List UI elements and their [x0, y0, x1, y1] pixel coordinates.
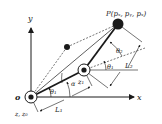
robot-arm-diagram: y x o z, z₀ z₁ P(pₓ, pᵧ, pₓ) θ₁ α θ₁ θ₂ …	[0, 0, 162, 124]
l1-label: L₁	[54, 106, 63, 114]
x-axis-label: x	[137, 93, 142, 102]
end-effector-label: P(pₓ, pᵧ, pₓ)	[105, 10, 146, 18]
base-joint	[25, 91, 37, 103]
base-joint-label: z, z₀	[14, 110, 28, 117]
link-1	[31, 70, 84, 97]
alpha-label: α	[71, 80, 76, 88]
alternate-elbow-dot	[64, 44, 70, 50]
alpha-arc	[67, 82, 70, 97]
origin-label: o	[15, 92, 21, 102]
y-axis-label: y	[27, 14, 33, 23]
end-effector-dot	[113, 19, 124, 30]
theta2-label: θ₂	[116, 47, 123, 55]
elbow-joint-label: z₁	[77, 78, 84, 86]
alternate-configuration-dashed	[31, 24, 145, 97]
l2-dimension	[84, 24, 142, 88]
elbow-joint	[78, 64, 90, 76]
theta1-elbow-label: θ₁	[107, 63, 114, 71]
l2-label: L₂	[124, 62, 133, 70]
theta1-base-label: θ₁	[50, 88, 57, 96]
